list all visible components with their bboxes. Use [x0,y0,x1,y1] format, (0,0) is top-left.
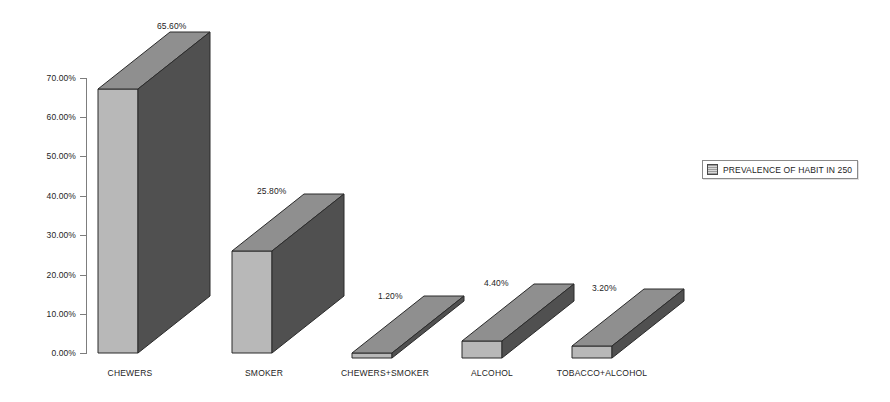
legend-swatch-icon [707,164,718,175]
y-axis-tick [80,117,86,118]
y-axis-tick-label: 0.00% [14,348,76,358]
legend-entry-label: PREVALENCE OF HABIT IN 250 [723,165,852,175]
bar-value-label-chewers: 65.60% [157,21,186,31]
bar-tobacco-alcohol [572,289,762,365]
bar-value-label-chewers-smoker: 1.20% [378,291,403,301]
bar-value-label-smoker: 25.80% [257,186,286,196]
y-axis-tick-label: 20.00% [14,270,76,280]
y-axis-tick-label: 50.00% [14,151,76,161]
y-axis-tick-label: 10.00% [14,309,76,319]
x-axis-label-chewers-smoker: CHEWERS+SMOKER [341,368,429,378]
x-axis-label-alcohol: ALCOHOL [471,368,513,378]
y-axis-tick [80,353,86,354]
y-axis-tick [80,275,86,276]
bar-chart: 70.00% 60.00% 50.00% 40.00% 30.00% 20.00… [0,0,890,402]
y-axis-line [86,78,87,354]
y-axis-tick-label: 40.00% [14,191,76,201]
y-axis-tick-label: 60.00% [14,112,76,122]
y-axis-tick-label: 70.00% [14,73,76,83]
y-axis-tick [80,235,86,236]
x-axis-label-smoker: SMOKER [245,368,283,378]
y-axis-tick [80,156,86,157]
chart-legend: PREVALENCE OF HABIT IN 250 [702,160,858,179]
x-axis-label-tobacco-alcohol: TOBACCO+ALCOHOL [557,368,647,378]
y-axis-tick [80,78,86,79]
y-axis-tick-label: 30.00% [14,230,76,240]
y-axis-tick [80,196,86,197]
bar-value-label-alcohol: 4.40% [484,278,509,288]
bar-value-label-tobacco-alcohol: 3.20% [592,283,617,293]
y-axis-tick [80,314,86,315]
x-axis-label-chewers: CHEWERS [108,368,153,378]
